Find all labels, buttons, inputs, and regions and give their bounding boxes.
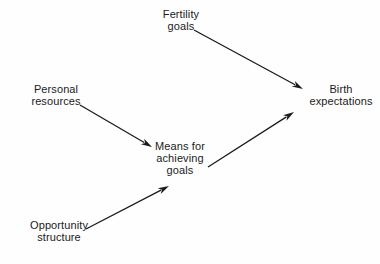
arrowhead bbox=[158, 186, 169, 194]
node-birth-expectations: Birth expectations bbox=[303, 83, 379, 107]
arrow-personal-resources-to-means bbox=[80, 105, 152, 147]
node-fertility-goals: Fertility goals bbox=[148, 8, 214, 32]
arrow-shaft bbox=[208, 117, 286, 167]
arrowhead bbox=[283, 112, 294, 121]
arrowhead bbox=[292, 81, 303, 89]
arrow-shaft bbox=[194, 30, 295, 85]
path-diagram: Fertility goalsPersonal resourcesBirth e… bbox=[0, 0, 380, 264]
node-means-for-achieving-goals: Means for achieving goals bbox=[150, 140, 210, 177]
arrow-shaft bbox=[80, 105, 144, 142]
node-opportunity-structure: Opportunity structure bbox=[18, 219, 100, 243]
node-personal-resources: Personal resources bbox=[18, 83, 94, 107]
arrow-fertility-goals-to-birth-expectations bbox=[194, 30, 303, 89]
arrow-means-to-birth-expectations bbox=[208, 112, 294, 167]
